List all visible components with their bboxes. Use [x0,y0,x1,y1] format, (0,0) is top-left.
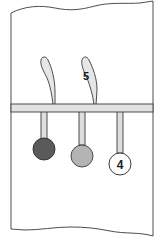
pendant-middle-ball-medium [71,145,93,167]
pendant-left-ball-dark [33,138,55,160]
horizontal-bar [11,104,153,112]
pendant-left-stem [41,110,47,139]
label-4: 4 [117,158,124,172]
diagram-canvas: 5 4 [0,0,159,238]
label-5: 5 [83,70,89,82]
pendant-right-stem [117,110,123,153]
pendant-middle-stem [79,110,85,145]
diagram-svg: 5 4 [0,0,159,238]
